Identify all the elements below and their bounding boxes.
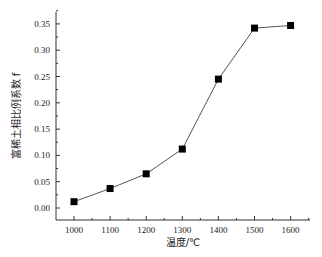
y-axis-title: 富稀土相比例系数 f	[10, 72, 22, 159]
y-tick-label: 0.25	[34, 72, 50, 82]
square-marker	[107, 185, 114, 192]
x-tick-label: 1400	[209, 225, 228, 235]
y-tick-label: 0.35	[34, 19, 50, 29]
line-chart: 0.000.050.100.150.200.250.300.35 1000110…	[0, 0, 322, 257]
square-marker	[143, 170, 150, 177]
data-line	[74, 25, 291, 201]
y-tick-label: 0.05	[34, 177, 50, 187]
x-tick-label: 1100	[101, 225, 119, 235]
x-tick-label: 1300	[173, 225, 192, 235]
y-tick-label: 0.00	[34, 203, 50, 213]
data-markers	[71, 22, 295, 205]
x-axis-ticks: 1000110012001300140015001600	[65, 216, 309, 235]
square-marker	[215, 76, 222, 83]
y-tick-label: 0.10	[34, 150, 50, 160]
y-tick-label: 0.20	[34, 98, 50, 108]
x-tick-label: 1000	[65, 225, 84, 235]
y-tick-label: 0.15	[34, 124, 50, 134]
y-tick-label: 0.30	[34, 45, 50, 55]
x-tick-label: 1200	[137, 225, 156, 235]
square-marker	[287, 22, 294, 29]
square-marker	[71, 198, 78, 205]
x-tick-label: 1500	[246, 225, 265, 235]
axes	[56, 12, 310, 220]
square-marker	[179, 146, 186, 153]
square-marker	[251, 25, 258, 32]
x-axis-title: 温度/℃	[166, 236, 201, 248]
x-tick-label: 1600	[282, 225, 301, 235]
